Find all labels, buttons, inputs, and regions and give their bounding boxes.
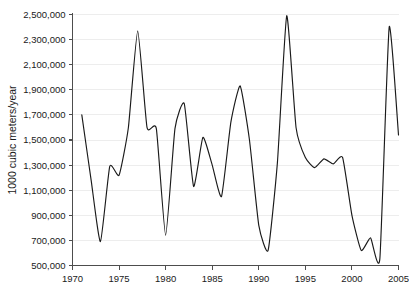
gridlines-group [73, 15, 399, 241]
x-tick-label: 1985 [202, 273, 223, 284]
y-tick-label: 1,100,000 [23, 185, 65, 196]
x-tick-label: 1970 [62, 273, 83, 284]
x-tick-label: 2005 [388, 273, 409, 284]
y-tick-label: 1,500,000 [23, 134, 65, 145]
x-tick-label: 1975 [109, 273, 130, 284]
y-tick-label: 700,000 [31, 235, 65, 246]
x-tick-label: 1980 [155, 273, 176, 284]
x-tick-labels: 19701975198019851990199520002005 [62, 273, 409, 284]
data-series-line [82, 16, 399, 264]
y-tick-label: 1,900,000 [23, 84, 65, 95]
y-tick-label: 900,000 [31, 210, 65, 221]
y-tick-label: 1,300,000 [23, 160, 65, 171]
y-tick-label: 500,000 [31, 260, 65, 271]
chart-container: 500,000700,000900,0001,100,0001,300,0001… [0, 0, 409, 300]
y-tick-label: 1,700,000 [23, 109, 65, 120]
x-axis [73, 266, 399, 270]
line-chart: 500,000700,000900,0001,100,0001,300,0001… [0, 0, 409, 300]
y-tick-label: 2,500,000 [23, 9, 65, 20]
y-axis [69, 13, 73, 266]
y-tick-label: 2,100,000 [23, 59, 65, 70]
data-line-path [82, 16, 399, 264]
y-axis-title: 1000 cubic meters/year [6, 85, 18, 195]
y-axis-label: 1000 cubic meters/year [6, 85, 18, 195]
x-tick-label: 2000 [341, 273, 362, 284]
x-tick-label: 1990 [248, 273, 269, 284]
y-tick-labels: 500,000700,000900,0001,100,0001,300,0001… [23, 9, 65, 271]
x-tick-label: 1995 [295, 273, 316, 284]
y-tick-label: 2,300,000 [23, 34, 65, 45]
